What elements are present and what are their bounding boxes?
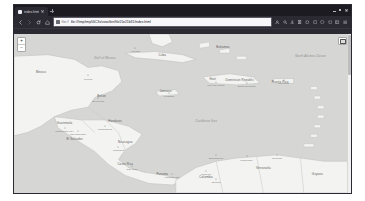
search-icon[interactable] xyxy=(282,19,288,26)
downloads-icon[interactable] xyxy=(290,19,296,26)
map-city-marker[interactable] xyxy=(104,126,105,127)
map-city-marker[interactable] xyxy=(131,165,132,166)
map-city-marker[interactable] xyxy=(135,48,136,49)
map-city-marker[interactable] xyxy=(246,156,247,157)
home-icon[interactable] xyxy=(44,18,51,26)
shield-icon xyxy=(56,20,60,24)
map-city-marker[interactable] xyxy=(276,154,277,155)
map-city-marker[interactable] xyxy=(246,83,247,84)
map-canvas[interactable]: + − Gulf of MexicoCaribbean SeaNorth Atl… xyxy=(14,34,351,193)
shield-icon[interactable] xyxy=(320,19,326,26)
page-icon xyxy=(18,10,22,14)
map-city-marker[interactable] xyxy=(64,127,65,128)
vertical-scrollbar[interactable] xyxy=(347,34,351,193)
bookmark-star-icon[interactable] xyxy=(265,20,269,24)
map-city-marker[interactable] xyxy=(283,80,284,81)
map-city-marker[interactable] xyxy=(98,97,99,98)
sidebar-icon[interactable] xyxy=(335,19,341,26)
container-icon[interactable] xyxy=(305,19,311,26)
tab-title: index.html xyxy=(24,10,39,14)
map-city-marker[interactable] xyxy=(216,81,217,82)
screenshot-root: index.html xyxy=(0,0,365,201)
navigation-toolbar: file:// file:///tmp/tmp56C3s/view/bin/fi… xyxy=(14,16,351,28)
url-scheme-label: file:// xyxy=(62,20,69,24)
map-zoom-control: + − xyxy=(17,37,26,52)
forward-icon[interactable] xyxy=(26,18,33,26)
back-icon[interactable] xyxy=(17,18,24,26)
map-city-marker[interactable] xyxy=(216,154,217,155)
library-icon[interactable] xyxy=(297,19,303,26)
reload-icon[interactable] xyxy=(35,18,42,26)
window-controls xyxy=(333,5,351,16)
minimize-icon[interactable] xyxy=(333,9,336,12)
map-city-marker[interactable] xyxy=(88,75,89,76)
tab-strip: index.html xyxy=(14,5,351,16)
close-icon[interactable] xyxy=(41,10,44,13)
zoom-out-button[interactable]: − xyxy=(18,44,25,51)
map-city-marker[interactable] xyxy=(206,170,207,171)
map-city-marker[interactable] xyxy=(118,146,119,147)
map-city-marker[interactable] xyxy=(78,130,79,131)
menu-icon[interactable] xyxy=(342,19,348,26)
pocket-icon[interactable] xyxy=(327,19,333,26)
map-city-marker[interactable] xyxy=(169,92,170,93)
account-icon[interactable] xyxy=(275,19,281,26)
browser-window: index.html xyxy=(13,4,352,194)
page-content: + − Gulf of MexicoCaribbean SeaNorth Atl… xyxy=(14,34,351,193)
map-layers-control[interactable] xyxy=(338,37,347,45)
url-input[interactable]: file:///tmp/tmp56C3s/view/bin/file15e21b… xyxy=(71,20,263,24)
map-city-marker[interactable] xyxy=(172,173,173,174)
new-tab-button[interactable] xyxy=(48,7,55,16)
url-bar[interactable]: file:// file:///tmp/tmp56C3s/view/bin/fi… xyxy=(53,17,272,27)
scrollbar-thumb[interactable] xyxy=(348,35,350,75)
toolbar-icon-group xyxy=(274,19,349,26)
layers-icon xyxy=(340,39,346,44)
maximize-icon[interactable] xyxy=(339,9,342,12)
browser-tab[interactable]: index.html xyxy=(15,7,48,16)
close-window-icon[interactable] xyxy=(345,9,348,12)
extension-icon[interactable] xyxy=(312,19,318,26)
map-city-marker[interactable] xyxy=(216,178,217,179)
